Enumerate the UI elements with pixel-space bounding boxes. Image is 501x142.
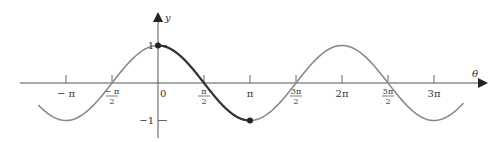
axes: θy xyxy=(20,12,488,138)
x-tick-label-denominator: 2 xyxy=(293,97,298,106)
y-tick-label: −1 xyxy=(139,115,154,126)
data-point xyxy=(247,118,253,124)
y-tick-label: 1 xyxy=(148,40,154,51)
y-axis-label: y xyxy=(164,12,171,23)
x-tick-label-denominator: 2 xyxy=(109,97,114,106)
x-tick-label: 0 xyxy=(160,88,166,99)
x-tick-label-numerator: π xyxy=(201,87,206,96)
x-tick-label-numerator: 3π xyxy=(291,87,301,96)
x-tick-label-denominator: 2 xyxy=(385,97,390,106)
x-tick-label: 2π xyxy=(336,88,349,99)
x-tick-label: − π xyxy=(57,88,76,99)
cosine-chart: θy − π− π20π2π3π22π5π23π1−1 xyxy=(0,0,501,142)
x-tick-label: π xyxy=(247,88,254,99)
x-tick-label-numerator: − π xyxy=(105,87,120,96)
x-axis-arrow-icon xyxy=(478,78,488,88)
x-tick-label-numerator: 5π xyxy=(383,87,393,96)
x-tick-label-denominator: 2 xyxy=(201,97,206,106)
x-tick-label: 3π xyxy=(428,88,441,99)
y-axis-arrow-icon xyxy=(153,12,163,22)
x-axis-label: θ xyxy=(472,68,478,79)
data-point xyxy=(155,43,161,49)
